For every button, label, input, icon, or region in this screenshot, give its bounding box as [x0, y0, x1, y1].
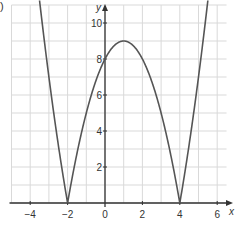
y-tick-label: 2 [96, 162, 102, 173]
x-axis-label: x [228, 206, 235, 217]
y-axis-label: y [95, 2, 102, 13]
x-tick-label: −2 [62, 209, 74, 220]
x-tick-label: 2 [140, 209, 146, 220]
x-tick-label: 6 [214, 209, 220, 220]
x-tick-label: 4 [177, 209, 183, 220]
x-tick-label: −4 [24, 209, 36, 220]
y-tick-label: 4 [96, 126, 102, 137]
function-plot: −4−20246246810xy [0, 0, 236, 226]
y-tick-label: 10 [91, 18, 103, 29]
y-tick-label: 8 [96, 54, 102, 65]
y-tick-label: 6 [96, 90, 102, 101]
x-tick-label: 0 [102, 209, 108, 220]
